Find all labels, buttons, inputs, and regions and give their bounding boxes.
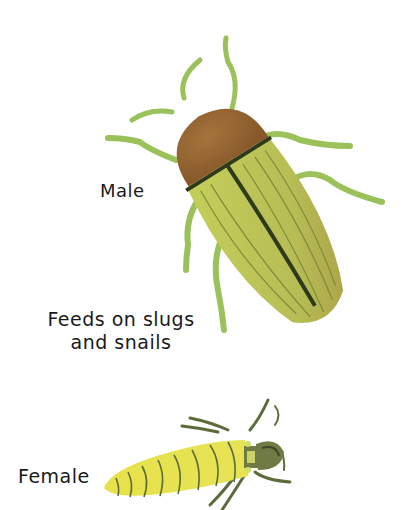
male-label: Male <box>100 180 145 202</box>
female-label: Female <box>18 465 90 488</box>
feeding-note-line-1: Feeds on slugs <box>46 308 196 331</box>
feeding-note: Feeds on slugs and snails <box>46 308 196 354</box>
female-beetle <box>104 400 290 510</box>
feeding-note-line-2: and snails <box>46 331 196 354</box>
male-beetle <box>108 38 382 344</box>
beetle-illustration <box>0 0 407 510</box>
